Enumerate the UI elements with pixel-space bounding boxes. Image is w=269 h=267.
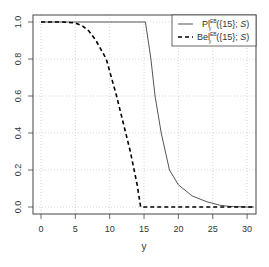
x-tick-label: 25 [208,224,218,234]
y-tick-label: 0.6 [13,90,23,103]
series-lines [41,22,254,207]
x-axis: 051015202530 [38,214,252,234]
x-tick-label: 20 [173,224,183,234]
pl-curve [41,22,254,207]
legend: PlEBy({15}; S) BelEBy({15}; S) [172,15,256,46]
x-tick-label: 10 [105,224,115,234]
y-axis: 0.00.20.40.60.81.0 [13,16,33,214]
y-tick-label: 0.0 [13,201,23,214]
line-chart: 051015202530 0.00.20.40.60.81.0 y PlEBy(… [0,0,269,267]
bel-curve [41,22,254,207]
x-tick-label: 0 [38,224,43,234]
x-tick-label: 15 [139,224,149,234]
y-tick-label: 1.0 [13,16,23,29]
y-tick-label: 0.4 [13,127,23,140]
x-axis-label: y [142,241,147,252]
x-tick-label: 30 [242,224,252,234]
y-tick-label: 0.8 [13,53,23,66]
y-tick-label: 0.2 [13,164,23,177]
x-tick-label: 5 [73,224,78,234]
